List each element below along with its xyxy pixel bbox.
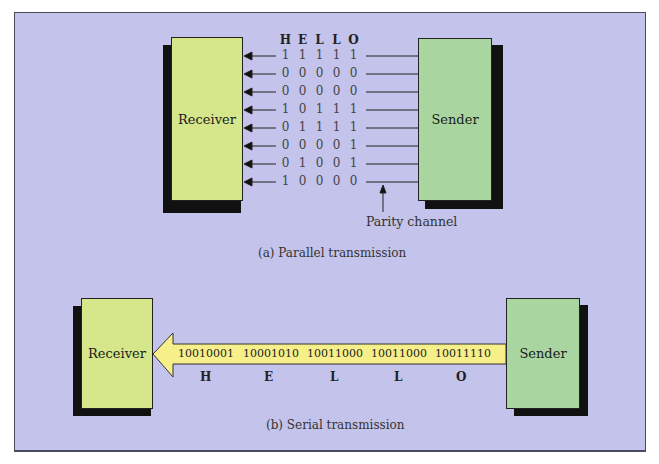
serial-byte-e: 10001010 <box>243 347 299 360</box>
serial-letter-o: O <box>456 370 466 384</box>
serial-byte-l2: 10011000 <box>371 347 427 360</box>
serial-letter-l2: L <box>394 370 402 384</box>
serial-letter-e: E <box>264 370 273 384</box>
serial-byte-o: 10011110 <box>435 347 491 360</box>
serial-byte-h: 10010001 <box>178 347 234 360</box>
serial-letter-h: H <box>200 370 211 384</box>
serial-arrow <box>0 0 659 464</box>
serial-byte-l1: 10011000 <box>307 347 363 360</box>
serial-letter-l1: L <box>330 370 338 384</box>
serial-caption: (b) Serial transmission <box>266 418 405 432</box>
